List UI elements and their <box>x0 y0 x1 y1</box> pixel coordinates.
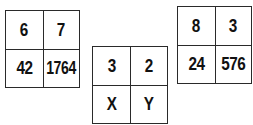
grid-3-cell-top-left: 8 <box>178 7 215 45</box>
grid-2-cell-top-left: 3 <box>93 47 130 85</box>
number: 1764 <box>46 58 76 79</box>
number: 3 <box>229 16 237 37</box>
grid-1-cell-bottom-right: 1764 <box>43 49 80 87</box>
grid-1-cell-top-right: 7 <box>43 11 80 49</box>
grid-2-cell-top-right: 2 <box>130 47 167 85</box>
number: 6 <box>20 20 28 41</box>
grid-2-cell-bottom-right: Y <box>130 85 167 123</box>
number: 8 <box>192 16 200 37</box>
grid-1-cell-bottom-left: 42 <box>6 49 43 87</box>
grid-3-cell-bottom-right: 576 <box>215 45 252 83</box>
grid-3-cell-bottom-left: 24 <box>178 45 215 83</box>
unknown-y: Y <box>144 94 154 115</box>
grid-1: 6 7 42 1764 <box>5 10 80 88</box>
unknown-x: X <box>107 94 117 115</box>
grid-3-cell-top-right: 3 <box>215 7 252 45</box>
grid-1-cell-top-left: 6 <box>6 11 43 49</box>
grid-2-cell-bottom-left: X <box>93 85 130 123</box>
number: 24 <box>188 54 204 75</box>
number: 42 <box>16 58 32 79</box>
number: 7 <box>57 20 65 41</box>
grid-2: 3 2 X Y <box>92 46 168 124</box>
number: 3 <box>107 56 115 77</box>
number: 2 <box>145 56 153 77</box>
number: 576 <box>221 54 245 75</box>
grid-3: 8 3 24 576 <box>177 6 252 84</box>
